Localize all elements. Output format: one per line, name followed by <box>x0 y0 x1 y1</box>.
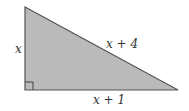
hypotenuse-label: x + 4 <box>106 37 138 51</box>
right-triangle <box>25 7 178 90</box>
triangle-diagram: x x + 4 x + 1 <box>0 0 189 111</box>
bottom-side-label: x + 1 <box>93 93 125 107</box>
left-side-label: x <box>15 42 22 56</box>
